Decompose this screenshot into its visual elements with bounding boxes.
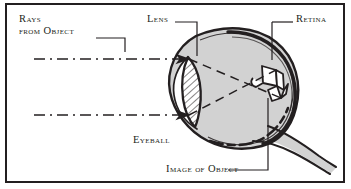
label-image-of-object: Image of Object xyxy=(166,163,239,175)
label-rays-line1: Rays xyxy=(19,13,41,24)
optic-nerve xyxy=(253,126,336,174)
figure-panel: Rays from Object Lens Retina Eyeball Ima… xyxy=(0,0,351,189)
label-eyeball: Eyeball xyxy=(133,134,170,146)
label-lens: Lens xyxy=(147,13,168,25)
leader-rays xyxy=(96,38,125,52)
label-retina: Retina xyxy=(296,13,326,25)
incoming-rays xyxy=(34,59,189,115)
label-rays-from-object: Rays from Object xyxy=(19,13,74,37)
label-rays-line2: from Object xyxy=(19,25,74,37)
